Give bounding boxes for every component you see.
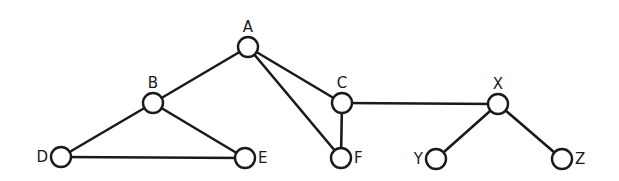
edge-a-b <box>153 47 248 103</box>
graph-diagram: ABCDEFXYZ <box>0 0 619 181</box>
node-y <box>426 149 446 169</box>
label-layer: ABCDEFXYZ <box>36 18 585 168</box>
edge-b-e <box>153 103 245 158</box>
edge-c-x <box>342 103 498 104</box>
node-label-a: A <box>243 18 254 36</box>
node-d <box>51 147 71 167</box>
node-label-d: D <box>36 148 48 166</box>
node-label-z: Z <box>575 150 585 168</box>
node-label-e: E <box>258 149 267 167</box>
node-b <box>143 93 163 113</box>
node-a <box>238 37 258 57</box>
edge-b-d <box>61 103 153 157</box>
edge-d-e <box>61 157 245 158</box>
node-label-x: X <box>493 75 503 93</box>
edge-a-f <box>248 47 341 158</box>
node-x <box>488 94 508 114</box>
edge-a-c <box>248 47 342 103</box>
node-z <box>552 149 572 169</box>
node-label-b: B <box>148 74 158 92</box>
node-label-y: Y <box>413 150 424 168</box>
edge-x-y <box>436 104 498 159</box>
node-label-f: F <box>354 149 363 167</box>
node-c <box>332 93 352 113</box>
node-label-c: C <box>337 74 347 92</box>
node-f <box>331 148 351 168</box>
node-layer <box>51 37 572 169</box>
node-e <box>235 148 255 168</box>
edge-x-z <box>498 104 562 159</box>
